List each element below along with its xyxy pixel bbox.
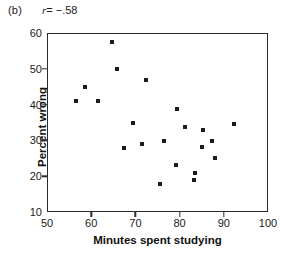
x-axis-tick-label: 50: [41, 217, 53, 229]
plot-area: [47, 33, 268, 212]
data-point: [232, 122, 236, 126]
x-axis-label: Minutes spent studying: [47, 234, 268, 246]
data-point: [162, 139, 166, 143]
data-point: [83, 85, 87, 89]
x-axis-tick-label: 80: [173, 217, 185, 229]
correlation-value: = −.58: [46, 4, 77, 16]
x-axis-tick-label: 70: [129, 217, 141, 229]
x-axis-tick-label: 90: [218, 217, 230, 229]
panel-label: (b): [8, 4, 22, 16]
data-point: [193, 171, 197, 175]
data-point: [74, 99, 78, 103]
data-point: [140, 142, 144, 146]
data-point: [115, 67, 119, 71]
data-point: [210, 139, 214, 143]
data-point: [122, 146, 126, 150]
y-axis-tick-label: 30: [2, 134, 42, 146]
data-point: [174, 163, 178, 167]
data-point: [96, 99, 100, 103]
data-point: [183, 125, 187, 129]
x-axis-tick-label: 100: [259, 217, 277, 229]
data-point: [213, 156, 217, 160]
y-axis-tick-label: 20: [2, 170, 42, 182]
data-point: [175, 107, 179, 111]
data-point: [200, 145, 204, 149]
y-axis-tick-label: 40: [2, 99, 42, 111]
y-axis-tick-label: 50: [2, 63, 42, 75]
scatter-plot-figure: (b) r= −.58 Percent wrong 102030405060 5…: [0, 0, 284, 254]
data-point: [158, 182, 162, 186]
y-axis-tick-label: 60: [2, 27, 42, 39]
correlation-annotation: r= −.58: [42, 4, 77, 16]
data-point: [201, 128, 205, 132]
y-axis-tick-label: 10: [2, 206, 42, 218]
data-point: [192, 178, 196, 182]
x-axis-tick-label: 60: [85, 217, 97, 229]
data-point: [144, 78, 148, 82]
data-point: [131, 121, 135, 125]
data-point: [110, 40, 114, 44]
